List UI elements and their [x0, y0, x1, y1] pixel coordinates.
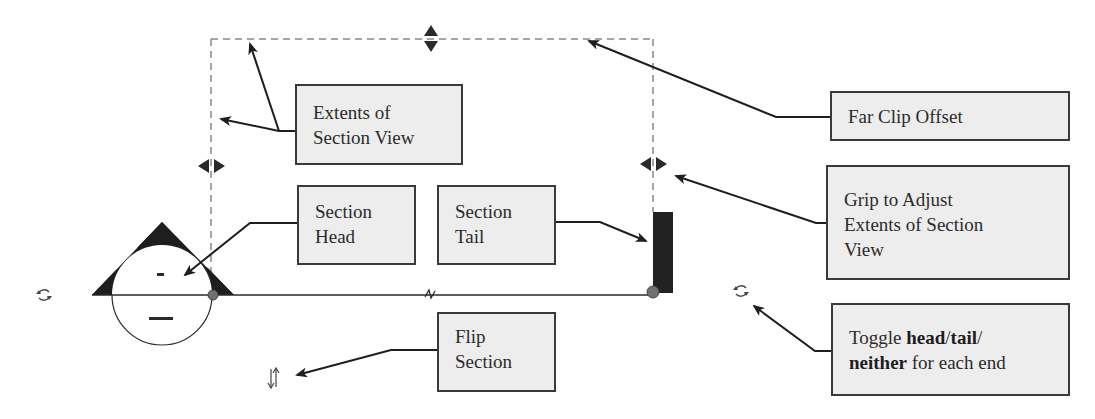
callout-text: Extents of	[313, 100, 449, 125]
callout-far-clip-offset: Far Clip Offset	[830, 91, 1070, 141]
callout-text: Far Clip Offset	[848, 104, 1056, 129]
callout-grip-adjust-extents: Grip to Adjust Extents of Section View	[826, 165, 1070, 280]
endpoint-grip	[208, 290, 218, 300]
section-tail-symbol	[653, 212, 673, 293]
callout-text: Tail	[455, 224, 542, 249]
callout-toggle-head-tail: Toggle head/tail/ neither for each end	[831, 303, 1070, 396]
section-head-symbol[interactable]	[92, 222, 234, 345]
endpoint-grip	[647, 286, 659, 298]
callout-text: Grip to Adjust	[844, 187, 1056, 212]
callout-section-head: Section Head	[297, 185, 416, 265]
callout-text: Flip	[455, 324, 542, 349]
callout-extents-of-section-view: Extents of Section View	[295, 84, 463, 165]
callout-flip-section: Flip Section	[437, 312, 556, 392]
flip-arrows-icon[interactable]	[268, 368, 279, 388]
cycle-icon[interactable]	[36, 290, 52, 300]
callout-text: Head	[315, 224, 402, 249]
callout-text: neither for each end	[849, 350, 1056, 375]
callout-text: Section	[315, 199, 402, 224]
callout-text: Section View	[313, 125, 449, 150]
break-line-icon	[425, 290, 435, 298]
callout-text: Section	[455, 349, 542, 374]
section-view-diagram: Extents of Section View Far Clip Offset …	[0, 0, 1095, 419]
callout-text: Extents of Section	[844, 212, 1056, 237]
callout-text: View	[844, 237, 1056, 262]
callout-text: Toggle head/tail/	[849, 325, 1056, 350]
cycle-icon[interactable]	[733, 286, 749, 296]
callout-text: Section	[455, 199, 542, 224]
callout-section-tail: Section Tail	[437, 185, 556, 265]
